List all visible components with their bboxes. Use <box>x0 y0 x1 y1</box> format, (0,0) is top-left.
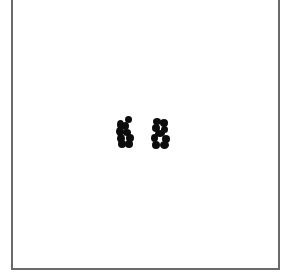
distorted-glyph-2 <box>151 118 171 150</box>
image-frame <box>11 0 280 270</box>
distorted-glyph-1 <box>116 116 136 150</box>
canvas <box>0 0 288 279</box>
